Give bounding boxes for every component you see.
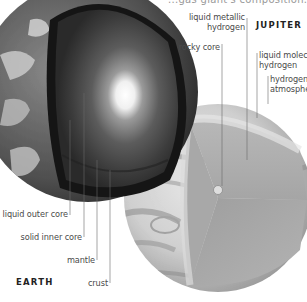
diagram-artwork	[0, 0, 307, 302]
top-caption: ...gas giant's composition...	[168, 0, 307, 5]
label-rocky-core: rocky core	[179, 42, 220, 52]
label-crust: crust	[88, 278, 108, 288]
label-liquid-metallic-hydrogen: liquid metallic hydrogen	[189, 12, 245, 32]
planet-interior-diagram: ...gas giant's composition... JUPITER li…	[0, 0, 307, 302]
label-hydrogen-atmosphere: hydrogen atmosphere	[270, 74, 307, 94]
label-mantle: mantle	[67, 255, 95, 265]
label-solid-inner-core: solid inner core	[21, 232, 82, 242]
earth-title: EARTH	[16, 277, 53, 287]
label-liquid-molecular-hydrogen: liquid molecular hydrogen	[259, 50, 307, 70]
earth-globe	[0, 0, 198, 202]
jupiter-title: JUPITER	[256, 20, 302, 30]
label-liquid-outer-core: liquid outer core	[3, 209, 68, 219]
